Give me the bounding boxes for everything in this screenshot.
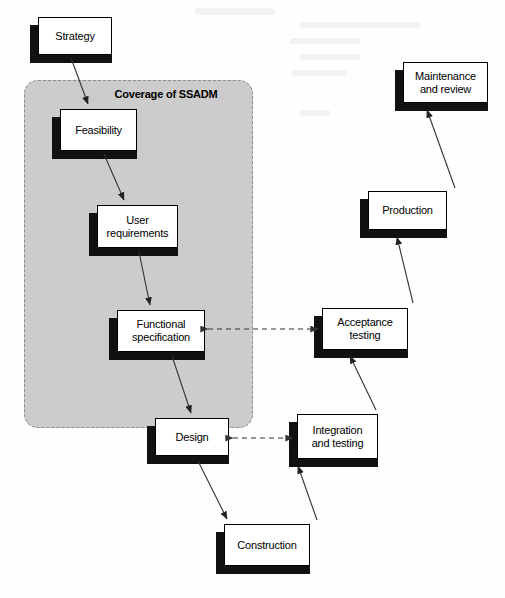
node-production[interactable]: Production — [368, 191, 447, 230]
node-user-requirements[interactable]: User requirements — [97, 205, 178, 248]
scan-artifact — [292, 70, 347, 76]
node-label: Production — [379, 204, 436, 217]
node-label: Feasibility — [72, 124, 125, 137]
node-shadow — [109, 352, 205, 360]
node-shadow — [360, 230, 447, 238]
node-shadow — [216, 566, 310, 574]
edge-construction-to-integration — [298, 466, 317, 520]
node-label: Integration and testing — [309, 424, 367, 450]
node-label: Construction — [234, 539, 299, 552]
node-label: Maintenance and review — [412, 70, 479, 96]
node-strategy[interactable]: Strategy — [38, 17, 112, 55]
node-label: Strategy — [52, 30, 97, 43]
node-label: User requirements — [104, 214, 172, 240]
node-feasibility[interactable]: Feasibility — [60, 109, 137, 151]
node-shadow — [314, 350, 408, 358]
node-label: Acceptance testing — [334, 316, 395, 342]
node-functional-specification[interactable]: Functional specification — [117, 310, 205, 352]
node-label: Functional specification — [129, 318, 193, 344]
node-maintenance-and-review[interactable]: Maintenance and review — [403, 62, 488, 103]
node-integration-and-testing[interactable]: Integration and testing — [297, 414, 378, 459]
edge-design-to-construction — [198, 461, 227, 519]
edge-integration-to-acceptance — [350, 356, 376, 410]
node-shadow — [147, 456, 229, 464]
node-design[interactable]: Design — [155, 418, 229, 456]
diagram-canvas: Coverage of SSADM — [0, 0, 505, 598]
node-shadow — [52, 151, 137, 159]
node-shadow — [395, 103, 488, 111]
scan-artifact — [300, 110, 330, 116]
node-label: Design — [172, 431, 211, 444]
scan-artifact — [290, 38, 360, 44]
scan-artifact — [300, 54, 360, 60]
edge-acceptance-to-production — [397, 237, 413, 303]
scan-artifact — [300, 22, 420, 28]
node-construction[interactable]: Construction — [224, 524, 310, 566]
scan-artifact — [195, 8, 275, 15]
node-shadow — [89, 248, 178, 256]
edge-production-to-maintenance — [427, 110, 455, 188]
node-acceptance-testing[interactable]: Acceptance testing — [322, 308, 408, 350]
coverage-region-label: Coverage of SSADM — [103, 88, 229, 100]
node-shadow — [289, 459, 378, 467]
node-shadow — [30, 55, 112, 63]
